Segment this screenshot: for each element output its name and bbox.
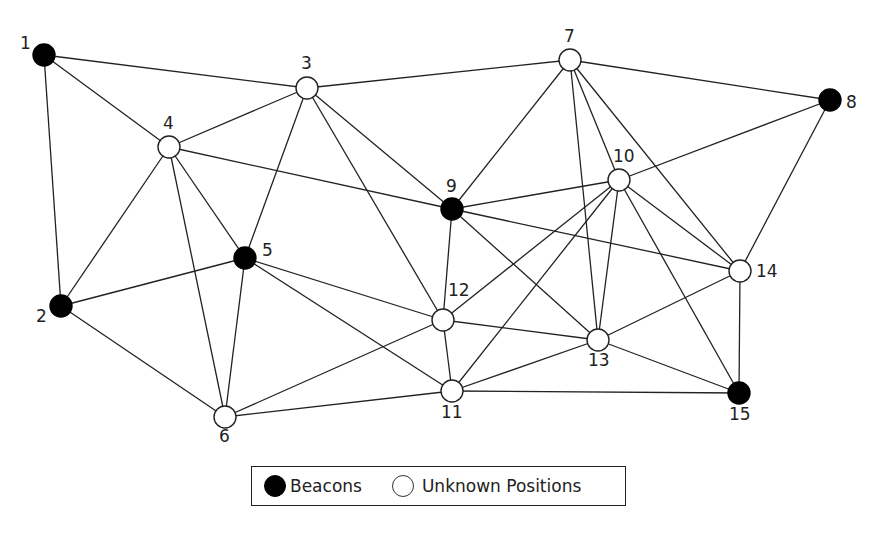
node-label-15: 15 bbox=[729, 404, 751, 424]
legend: Beacons Unknown Positions bbox=[251, 466, 626, 506]
edge-7-8 bbox=[570, 60, 830, 100]
edge-8-14 bbox=[740, 100, 830, 271]
edge-14-15 bbox=[739, 271, 740, 393]
unknown-node-10 bbox=[608, 169, 630, 191]
edge-5-6 bbox=[225, 258, 245, 417]
node-label-12: 12 bbox=[448, 280, 470, 300]
edge-7-10 bbox=[570, 60, 619, 180]
node-label-2: 2 bbox=[36, 306, 47, 326]
edge-10-15 bbox=[619, 180, 739, 393]
edge-9-10 bbox=[452, 180, 619, 209]
node-label-4: 4 bbox=[163, 113, 174, 133]
beacon-node-5 bbox=[234, 247, 256, 269]
node-label-11: 11 bbox=[441, 402, 463, 422]
edge-3-5 bbox=[245, 88, 307, 258]
node-label-14: 14 bbox=[756, 261, 778, 281]
beacon-node-2 bbox=[50, 295, 72, 317]
edge-1-3 bbox=[44, 55, 307, 88]
edge-4-9 bbox=[169, 147, 452, 209]
network-graph: 123456789101112131415 bbox=[0, 0, 881, 544]
node-label-3: 3 bbox=[301, 53, 312, 73]
edge-5-12 bbox=[245, 258, 443, 320]
edge-7-9 bbox=[452, 60, 570, 209]
edge-9-12 bbox=[443, 209, 452, 320]
node-label-5: 5 bbox=[262, 240, 273, 260]
hollow-circle-icon bbox=[392, 475, 414, 497]
legend-label-beacons: Beacons bbox=[290, 476, 362, 496]
unknown-node-6 bbox=[214, 406, 236, 428]
beacon-node-9 bbox=[441, 198, 463, 220]
graph-edges bbox=[44, 55, 830, 417]
unknown-node-11 bbox=[441, 380, 463, 402]
unknown-node-7 bbox=[559, 49, 581, 71]
node-label-6: 6 bbox=[219, 426, 230, 446]
edge-3-7 bbox=[307, 60, 570, 88]
edge-8-10 bbox=[619, 100, 830, 180]
graph-nodes bbox=[33, 44, 841, 428]
edge-3-12 bbox=[307, 88, 443, 320]
edge-11-13 bbox=[452, 340, 598, 391]
node-label-8: 8 bbox=[846, 92, 857, 112]
filled-circle-icon bbox=[264, 475, 286, 497]
unknown-node-14 bbox=[729, 260, 751, 282]
edge-3-4 bbox=[169, 88, 307, 147]
edge-10-13 bbox=[598, 180, 619, 340]
unknown-node-3 bbox=[296, 77, 318, 99]
legend-label-unknown: Unknown Positions bbox=[422, 476, 581, 496]
unknown-node-12 bbox=[432, 309, 454, 331]
node-label-1: 1 bbox=[20, 33, 31, 53]
legend-item-unknown: Unknown Positions bbox=[362, 475, 581, 497]
edge-1-2 bbox=[44, 55, 61, 306]
edge-3-9 bbox=[307, 88, 452, 209]
beacon-node-8 bbox=[819, 89, 841, 111]
edge-11-15 bbox=[452, 391, 739, 393]
node-label-10: 10 bbox=[613, 146, 635, 166]
edge-6-11 bbox=[225, 391, 452, 417]
unknown-node-4 bbox=[158, 136, 180, 158]
edge-9-13 bbox=[452, 209, 598, 340]
edge-13-14 bbox=[598, 271, 740, 340]
node-label-9: 9 bbox=[446, 176, 457, 196]
edge-6-12 bbox=[225, 320, 443, 417]
node-label-13: 13 bbox=[588, 350, 610, 370]
edge-12-13 bbox=[443, 320, 598, 340]
node-label-7: 7 bbox=[564, 26, 575, 46]
edge-5-11 bbox=[245, 258, 452, 391]
legend-item-beacons: Beacons bbox=[252, 475, 362, 497]
edge-13-15 bbox=[598, 340, 739, 393]
beacon-node-1 bbox=[33, 44, 55, 66]
beacon-node-15 bbox=[728, 382, 750, 404]
unknown-node-13 bbox=[587, 329, 609, 351]
edge-2-6 bbox=[61, 306, 225, 417]
